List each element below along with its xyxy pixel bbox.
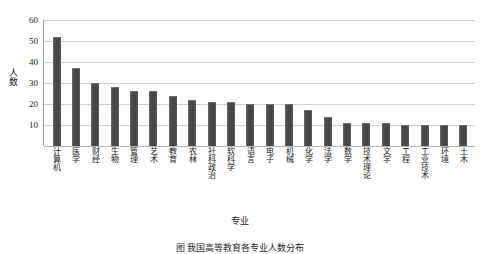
x-tick-label: 农林 — [187, 147, 196, 163]
x-tick-label: 化学 — [303, 147, 312, 163]
bar — [208, 102, 216, 146]
bar — [246, 104, 254, 146]
x-tick-label: 艺术 — [148, 147, 157, 163]
bar-slot — [183, 20, 202, 146]
bar-slot — [241, 20, 260, 146]
bar-slot — [318, 20, 337, 146]
bar — [188, 100, 196, 146]
x-tick-label: 计算机 — [51, 147, 60, 171]
bar — [343, 123, 351, 146]
y-tick-label: 60 — [29, 16, 38, 25]
bar — [324, 117, 332, 146]
x-tick-label: 文学 — [381, 147, 390, 163]
x-axis-title: 专业 — [0, 214, 480, 227]
x-tick-slot: 工程 — [395, 147, 414, 209]
bar — [362, 123, 370, 146]
x-tick-label: 数学 — [342, 147, 351, 163]
bar-slot — [376, 20, 395, 146]
bar-slot — [124, 20, 143, 146]
x-tick-label: 机械 — [284, 147, 293, 163]
x-tick-label: 技术理论 — [362, 147, 371, 179]
x-tick-slot: 电子 — [259, 147, 278, 209]
bar-slot — [337, 20, 356, 146]
x-tick-label: 财经 — [90, 147, 99, 163]
bar-slot — [415, 20, 434, 146]
y-tick-label: 40 — [29, 58, 38, 67]
bar-series — [44, 20, 475, 146]
bar — [421, 125, 429, 146]
bar — [459, 125, 467, 146]
x-tick-label: 管理 — [129, 147, 138, 163]
x-axis-tick-labels: 计算机医学财经生物管理艺术教育农林社科政治软科学语言电子机械化学法学数学技术理论… — [43, 147, 475, 209]
bar — [227, 102, 235, 146]
bar — [285, 104, 293, 146]
y-tick-label: 20 — [29, 100, 38, 109]
x-tick-slot: 社科政治 — [201, 147, 220, 209]
bar-slot — [66, 20, 85, 146]
bar — [91, 83, 99, 146]
x-tick-slot: 农林 — [182, 147, 201, 209]
bar — [53, 37, 61, 146]
bar-slot — [221, 20, 240, 146]
bar — [72, 68, 80, 146]
bar — [111, 87, 119, 146]
bar-slot — [357, 20, 376, 146]
x-tick-label: 教育 — [168, 147, 177, 163]
x-tick-slot: 管理 — [124, 147, 143, 209]
x-tick-label: 医学 — [71, 147, 80, 163]
bar-slot — [202, 20, 221, 146]
x-tick-slot: 数学 — [337, 147, 356, 209]
bar-slot — [163, 20, 182, 146]
x-tick-slot: 软科学 — [221, 147, 240, 209]
bar — [130, 91, 138, 146]
x-tick-slot: 化学 — [298, 147, 317, 209]
bar-slot — [434, 20, 453, 146]
bar-chart-figure: 人数 102030405060 计算机医学财经生物管理艺术教育农林社科政治软科学… — [0, 0, 480, 254]
bar-slot — [395, 20, 414, 146]
bar-slot — [86, 20, 105, 146]
x-tick-label: 工程 — [401, 147, 410, 163]
x-tick-slot: 语言 — [240, 147, 259, 209]
bar-slot — [279, 20, 298, 146]
x-tick-label: 法学 — [323, 147, 332, 163]
x-tick-slot: 机械 — [279, 147, 298, 209]
bar-slot — [299, 20, 318, 146]
bar — [382, 123, 390, 146]
figure-caption: 图 我国高等教育各专业人数分布 — [0, 241, 480, 254]
x-tick-slot: 艺术 — [143, 147, 162, 209]
x-tick-label: 生物 — [109, 147, 118, 163]
bar — [401, 125, 409, 146]
y-tick-label: 30 — [29, 79, 38, 88]
x-tick-slot: 财经 — [85, 147, 104, 209]
x-tick-slot: 计算机 — [46, 147, 65, 209]
x-tick-slot: 医学 — [65, 147, 84, 209]
x-tick-slot: 土木 — [454, 147, 473, 209]
x-tick-label: 语言 — [245, 147, 254, 163]
bar — [169, 96, 177, 146]
x-tick-slot: 环境 — [434, 147, 453, 209]
x-tick-slot: 生物 — [104, 147, 123, 209]
y-axis-tick-labels: 102030405060 — [18, 0, 40, 160]
x-tick-slot: 文学 — [376, 147, 395, 209]
bar-slot — [47, 20, 66, 146]
bar-slot — [144, 20, 163, 146]
x-tick-slot: 教育 — [162, 147, 181, 209]
x-tick-label: 环境 — [439, 147, 448, 163]
bar — [266, 104, 274, 146]
x-tick-slot: 工业技术 — [415, 147, 434, 209]
x-tick-label: 工业技术 — [420, 147, 429, 179]
bar-slot — [260, 20, 279, 146]
bar-slot — [105, 20, 124, 146]
bar-slot — [454, 20, 473, 146]
y-tick-label: 10 — [29, 121, 38, 130]
x-tick-label: 电子 — [265, 147, 274, 163]
x-tick-slot: 法学 — [318, 147, 337, 209]
bar — [440, 125, 448, 146]
bar — [304, 110, 312, 146]
x-tick-label: 软科学 — [226, 147, 235, 171]
x-tick-label: 社科政治 — [206, 147, 215, 179]
y-axis-title: 人数 — [4, 68, 18, 86]
y-tick-label: 50 — [29, 37, 38, 46]
x-tick-label: 土木 — [459, 147, 468, 163]
x-tick-slot: 技术理论 — [357, 147, 376, 209]
